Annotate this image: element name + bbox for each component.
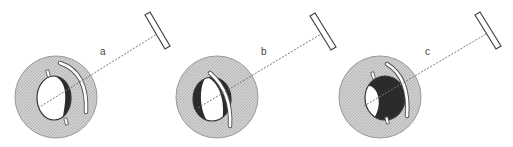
panel-label-c: c xyxy=(425,46,430,57)
panel-b: b xyxy=(176,13,336,138)
panel-c: c xyxy=(339,12,501,138)
mirror xyxy=(310,13,336,50)
inner-ball xyxy=(364,76,405,120)
mirror xyxy=(145,12,170,49)
eye-mirror-diagram: a b xyxy=(0,0,513,147)
panel-a: a xyxy=(15,12,170,138)
panel-label-b: b xyxy=(261,46,267,57)
mirror xyxy=(475,12,501,49)
panel-label-a: a xyxy=(100,46,106,57)
diagram-stage: a b xyxy=(0,0,513,147)
